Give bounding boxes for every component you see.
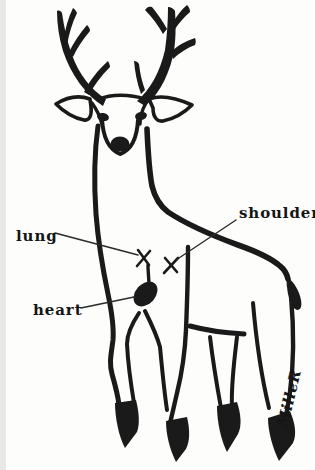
- deer-anatomy-figure: lung shoulder heart MilleR: [6, 0, 315, 470]
- antler-left-brow-tine: [84, 61, 110, 95]
- hoof-hind-near: [217, 402, 241, 452]
- antler-left-tine-1: [63, 8, 77, 45]
- hoof-front-near: [115, 400, 139, 448]
- front-leg-near-inner: [127, 313, 139, 403]
- artist-signature: MilleR: [273, 368, 305, 430]
- antler-right-inner-tine: [134, 61, 145, 94]
- antler-left-tine-2: [69, 25, 90, 57]
- forehead-line: [100, 95, 145, 99]
- hind-leg-far-inner: [253, 303, 269, 408]
- ear-left: [56, 97, 91, 120]
- tail: [286, 277, 301, 310]
- ear-right: [149, 97, 192, 121]
- hind-leg-near-back-line: [231, 337, 236, 406]
- deer-drawing: [56, 5, 301, 462]
- hoof-front-far: [166, 417, 189, 462]
- front-leg-far-inner: [145, 311, 167, 410]
- antler-left: [57, 8, 110, 106]
- nose: [110, 137, 129, 152]
- heart-label: heart: [33, 301, 83, 319]
- hind-leg-near-front-line: [210, 337, 221, 408]
- lung-label: lung: [16, 227, 58, 245]
- lung-x-marker: [137, 250, 150, 266]
- heart-shape: [128, 277, 162, 311]
- antler-right-tine-1: [145, 7, 167, 34]
- neck-chest-outline: [94, 126, 118, 405]
- antler-right: [134, 5, 196, 106]
- deer-illustration-svg: lung shoulder heart MilleR: [6, 0, 315, 470]
- antler-left-beam: [57, 11, 106, 106]
- front-leg-far-outer: [170, 247, 188, 423]
- belly-line: [190, 326, 244, 334]
- shoulder-label: shoulder: [239, 204, 315, 222]
